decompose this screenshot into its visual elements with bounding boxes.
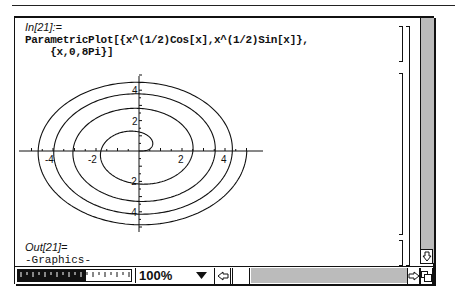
output-label: Out[21]= — [25, 241, 68, 253]
svg-text:2: 2 — [132, 116, 138, 127]
svg-text:-4: -4 — [45, 154, 54, 165]
notebook-window: In[21]:= ParametricPlot[{x^(1/2)Cos[x],x… — [14, 16, 434, 284]
zoom-level-value: 100% — [139, 268, 172, 283]
magnification-meter[interactable] — [17, 269, 132, 282]
svg-text:-2: -2 — [88, 154, 97, 165]
svg-text:2: 2 — [178, 154, 184, 165]
status-bar: 100% — [15, 266, 433, 285]
scroll-left-button[interactable] — [214, 268, 231, 284]
svg-text:-4: -4 — [128, 207, 137, 218]
arrow-down-icon — [422, 251, 432, 262]
arrow-left-icon — [217, 271, 229, 281]
resize-icon — [421, 271, 432, 282]
svg-text:4: 4 — [221, 154, 227, 165]
vertical-scrollbar[interactable] — [420, 18, 434, 263]
meter-ticks — [18, 270, 133, 283]
parametric-plot[interactable]: -4-224-4-224 — [15, 18, 420, 263]
horizontal-scroll-thumb[interactable] — [232, 268, 250, 284]
svg-text:-2: -2 — [128, 176, 137, 187]
window-shadow — [434, 18, 436, 286]
triangle-down-icon — [196, 272, 208, 280]
arrow-right-icon — [408, 271, 419, 281]
output-value: -Graphics- — [25, 254, 91, 266]
horizontal-scrollbar[interactable] — [251, 268, 407, 283]
scroll-down-button[interactable] — [420, 249, 433, 264]
zoom-level-dropdown[interactable]: 100% — [135, 268, 213, 283]
svg-text:4: 4 — [132, 85, 138, 96]
page-header-rule — [12, 5, 455, 6]
resize-grip[interactable] — [420, 268, 433, 284]
spiral-curve — [38, 82, 247, 225]
window-shadow — [16, 284, 436, 286]
scroll-right-button[interactable] — [407, 268, 420, 284]
